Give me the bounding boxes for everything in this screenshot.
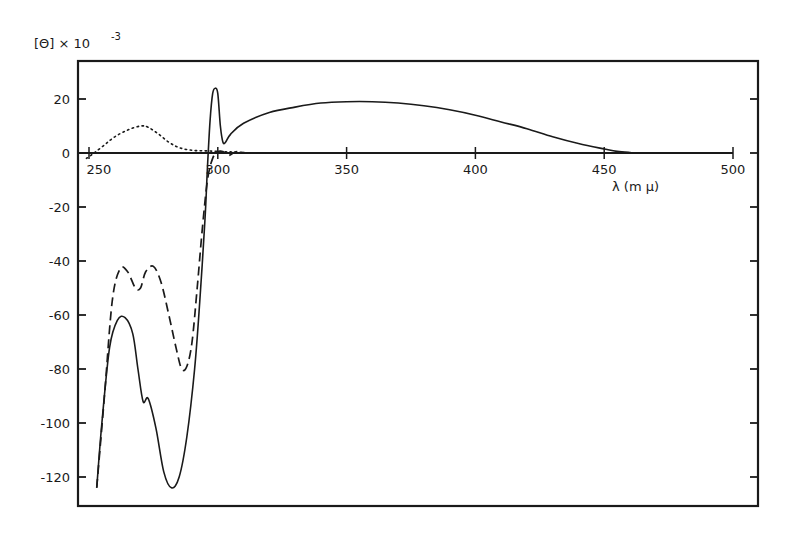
y-tick-label: -120 bbox=[40, 470, 70, 485]
y-tick-label: -80 bbox=[49, 362, 70, 377]
x-axis-label: λ (m μ) bbox=[612, 179, 659, 194]
y-tick-label: -100 bbox=[40, 416, 70, 431]
y-tick-label: 0 bbox=[62, 146, 70, 161]
x-tick-label: 400 bbox=[463, 162, 488, 177]
x-axis-ticks: 250300350400450500 bbox=[87, 147, 746, 177]
plot-frame bbox=[78, 61, 758, 506]
y-axis-ticks: 200-20-40-60-80-100-120 bbox=[40, 92, 758, 485]
y-axis-title: [Θ] × 10 -3 bbox=[34, 31, 121, 51]
y-tick-label: -20 bbox=[49, 200, 70, 215]
series-layer bbox=[86, 88, 733, 488]
x-tick-label: 450 bbox=[592, 162, 617, 177]
x-tick-label: 250 bbox=[87, 162, 112, 177]
y-tick-label: 20 bbox=[53, 92, 70, 107]
y-axis-label: [Θ] × 10 bbox=[34, 36, 90, 51]
y-tick-label: -40 bbox=[49, 254, 70, 269]
x-tick-label: 500 bbox=[721, 162, 746, 177]
series-dashed-line bbox=[97, 151, 282, 488]
series-solid-line bbox=[97, 88, 733, 488]
y-tick-label: -60 bbox=[49, 308, 70, 323]
y-axis-exponent: -3 bbox=[111, 31, 121, 42]
cd-spectrum-chart: [Θ] × 10 -3 200-20-40-60-80-100-120 2503… bbox=[0, 0, 798, 537]
x-tick-label: 350 bbox=[334, 162, 359, 177]
